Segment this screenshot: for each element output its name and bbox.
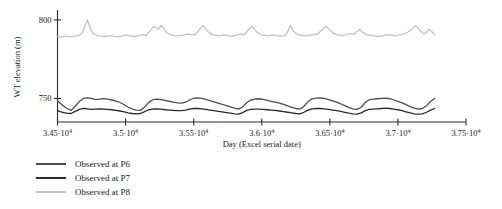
legend-label-p6: Observed at P6 bbox=[75, 158, 130, 170]
x-tick-label: 3.55·104 bbox=[179, 128, 208, 138]
x-tick-label: 3.5·104 bbox=[113, 128, 138, 138]
legend-swatch-p7 bbox=[36, 177, 66, 179]
x-tick-label: 3.7·104 bbox=[385, 128, 410, 138]
legend-label-p7: Observed at P7 bbox=[75, 172, 130, 184]
y-tick-label: 750 bbox=[39, 93, 52, 103]
legend-swatch-p8 bbox=[36, 191, 66, 193]
x-axis-title: Day (Excel serial date) bbox=[223, 139, 301, 149]
y-axis-title: WT elevation (m) bbox=[12, 36, 22, 97]
legend-swatch-p6 bbox=[36, 163, 66, 165]
plot-area: 7508003.45·1043.5·1043.55·1043.6·1043.65… bbox=[0, 0, 502, 150]
legend-item-p8: Observed at P8 bbox=[36, 186, 130, 198]
line-chart-svg: 7508003.45·1043.5·1043.55·1043.6·1043.65… bbox=[0, 0, 502, 150]
legend-item-p6: Observed at P6 bbox=[36, 158, 130, 170]
x-tick-label: 3.45·104 bbox=[43, 128, 72, 138]
chart-legend: Observed at P6 Observed at P7 Observed a… bbox=[36, 158, 130, 198]
x-tick-label: 3.65·104 bbox=[315, 128, 344, 138]
y-tick-label: 800 bbox=[39, 15, 52, 25]
series-line-observed-at-p8 bbox=[58, 20, 435, 37]
x-tick-label: 3.6·104 bbox=[249, 128, 274, 138]
legend-label-p8: Observed at P8 bbox=[75, 186, 130, 198]
legend-item-p7: Observed at P7 bbox=[36, 172, 130, 184]
x-tick-label: 3.75·104 bbox=[451, 128, 480, 138]
chart-figure: 7508003.45·1043.5·1043.55·1043.6·1043.65… bbox=[0, 0, 502, 209]
series-line-observed-at-p7 bbox=[58, 108, 435, 114]
